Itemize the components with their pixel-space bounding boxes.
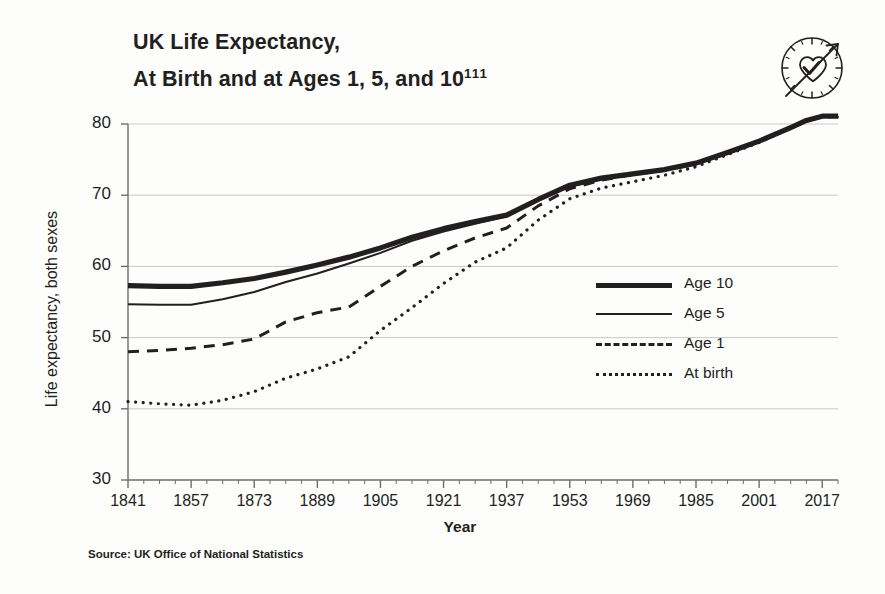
y-axis-title: Life expectancy, both sexes bbox=[43, 179, 61, 439]
x-tick-label-1873: 1873 bbox=[219, 492, 289, 510]
x-tick-label-1857: 1857 bbox=[156, 492, 226, 510]
legend-label-age10: Age 10 bbox=[684, 274, 733, 292]
x-tick-label-2017: 2017 bbox=[787, 492, 857, 510]
x-tick-label-1953: 1953 bbox=[535, 492, 605, 510]
legend-label-age1: Age 1 bbox=[684, 334, 725, 352]
legend-swatch-age10-icon bbox=[596, 276, 672, 290]
x-tick-label-1841: 1841 bbox=[93, 492, 163, 510]
legend-item-age1[interactable]: Age 1 bbox=[596, 328, 786, 358]
y-tick-label-30: 30 bbox=[71, 469, 111, 489]
legend-item-at-birth[interactable]: At birth bbox=[596, 358, 786, 388]
legend-item-age10[interactable]: Age 10 bbox=[596, 268, 786, 298]
x-tick-label-1889: 1889 bbox=[282, 492, 352, 510]
y-tick-label-40: 40 bbox=[71, 398, 111, 418]
legend-label-age5: Age 5 bbox=[684, 304, 725, 322]
y-tick-label-50: 50 bbox=[71, 327, 111, 347]
x-axis-title: Year bbox=[425, 518, 495, 536]
legend-item-age5[interactable]: Age 5 bbox=[596, 298, 786, 328]
legend-label-at-birth: At birth bbox=[684, 364, 733, 382]
x-tick-label-1969: 1969 bbox=[598, 492, 668, 510]
y-tick-label-80: 80 bbox=[71, 113, 111, 133]
x-tick-label-1937: 1937 bbox=[472, 492, 542, 510]
y-tick-label-70: 70 bbox=[71, 184, 111, 204]
x-tick-label-1921: 1921 bbox=[409, 492, 479, 510]
legend-swatch-age1-icon bbox=[596, 336, 672, 350]
chart-legend: Age 10 Age 5 Age 1 At birth bbox=[596, 268, 786, 388]
y-tick-label-60: 60 bbox=[71, 255, 111, 275]
chart-figure: UK Life Expectancy, At Birth and at Ages… bbox=[0, 0, 885, 594]
x-tick-label-2001: 2001 bbox=[724, 492, 794, 510]
x-tick-label-1905: 1905 bbox=[345, 492, 415, 510]
series-line-age-10 bbox=[128, 116, 838, 286]
legend-swatch-age5-icon bbox=[596, 306, 672, 320]
x-tick-label-1985: 1985 bbox=[661, 492, 731, 510]
source-note: Source: UK Office of National Statistics bbox=[88, 548, 303, 560]
legend-swatch-at-birth-icon bbox=[596, 366, 672, 380]
